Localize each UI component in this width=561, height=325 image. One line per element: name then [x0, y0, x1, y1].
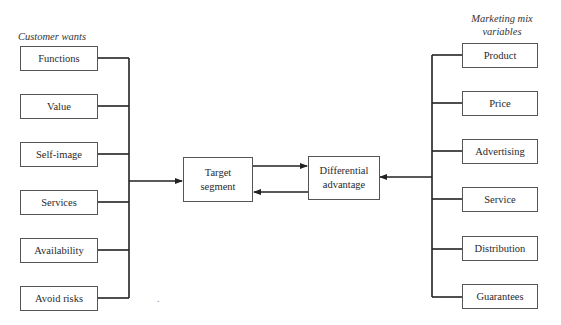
stray-dot: .: [157, 293, 160, 304]
box-distribution: Distribution: [462, 236, 538, 261]
box-availability: Availability: [20, 238, 98, 263]
marketing-mix-title: Marketing mix variables: [462, 12, 542, 38]
box-services: Services: [20, 190, 98, 215]
differential-line1: Differential: [320, 164, 369, 178]
box-self-image: Self-image: [20, 142, 98, 167]
customer-wants-title: Customer wants: [18, 30, 118, 43]
box-differential-advantage: Differential advantage: [308, 156, 380, 200]
target-line1: Target: [205, 166, 231, 180]
box-functions: Functions: [20, 46, 98, 71]
box-guarantees: Guarantees: [462, 284, 538, 309]
box-value: Value: [20, 94, 98, 119]
target-line2: segment: [201, 180, 236, 194]
box-avoid-risks: Avoid risks: [20, 286, 98, 311]
box-product: Product: [462, 43, 538, 68]
box-service: Service: [462, 187, 538, 212]
box-advertising: Advertising: [462, 139, 538, 164]
marketing-mix-title-line1: Marketing mix: [462, 12, 542, 25]
box-price: Price: [462, 91, 538, 116]
differential-line2: advantage: [323, 178, 366, 192]
box-target-segment: Target segment: [183, 157, 253, 202]
marketing-mix-title-line2: variables: [462, 25, 542, 38]
